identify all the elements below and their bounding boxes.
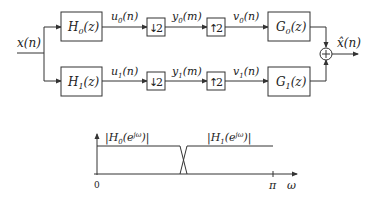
- g0-to-adder-arrow: [310, 27, 326, 47]
- u0-label: u0(n): [111, 10, 138, 25]
- x-axis-omega-label: ω: [287, 179, 296, 192]
- g0-filter-label: G0(z): [276, 20, 307, 36]
- upsampler-1-factor: 2: [216, 76, 223, 89]
- input-label: x(n): [17, 36, 41, 50]
- u1-label: u1(n): [111, 65, 138, 80]
- output-label: x̂(n): [337, 36, 361, 50]
- g1-filter-label: G1(z): [276, 75, 307, 91]
- h1-response-curve: [180, 146, 273, 174]
- downsampler-0-factor: 2: [156, 22, 163, 35]
- y0-label: y0(m): [171, 10, 202, 25]
- y1-label: y1(m): [171, 65, 202, 80]
- frequency-response-plot: |H0(ejω)| |H1(ejω)| 0 π ω: [94, 131, 297, 192]
- v0-label: v0(n): [233, 10, 259, 25]
- x-tick-pi: π: [268, 179, 277, 192]
- filter-bank-diagram: x(n) H0(z) u0(n) ↓ 2 y0(m) ↑ 2 v0(n) G0(…: [0, 0, 381, 200]
- upsampler-0-factor: 2: [216, 22, 223, 35]
- g1-to-adder-arrow: [310, 60, 326, 81]
- h1-magnitude-label: |H1(ejω)|: [207, 131, 251, 146]
- downsampler-1-factor: 2: [156, 76, 163, 89]
- v1-label: v1(n): [233, 65, 259, 80]
- branch-1: H1(z) u1(n) ↓ 2 y1(m) ↑ 2 v1(n) G1(z): [61, 60, 326, 96]
- input-signal: x(n): [17, 36, 44, 53]
- adder-node: [320, 48, 332, 60]
- x-tick-zero: 0: [94, 180, 100, 190]
- h0-filter-label: H0(z): [67, 20, 100, 36]
- branch-0: H0(z) u0(n) ↓ 2 y0(m) ↑ 2 v0(n) G0(z): [61, 10, 326, 47]
- h1-filter-label: H1(z): [67, 75, 100, 91]
- h0-magnitude-label: |H0(ejω)|: [105, 131, 149, 146]
- h0-response-curve: [97, 146, 187, 174]
